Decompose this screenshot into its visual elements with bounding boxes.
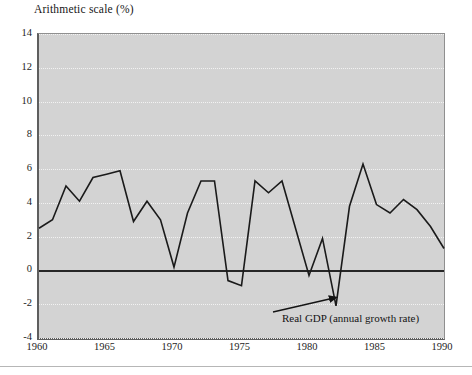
y-axis-tick-labels: 14121086420-2-4: [0, 33, 32, 337]
bottom-divider: [0, 366, 472, 367]
y-tick-label: 14: [4, 28, 32, 38]
y-tick-label: 6: [4, 163, 32, 173]
real-gdp-growth-chart: Arithmetic scale (%) 14121086420-2-4 Rea…: [0, 0, 472, 375]
gridline: [39, 338, 444, 339]
x-tick-label: 1975: [218, 341, 262, 353]
x-tick-label: 1970: [150, 341, 194, 353]
y-tick-label: 2: [4, 231, 32, 241]
x-tick-label: 1990: [420, 341, 464, 353]
y-tick-label: -2: [4, 298, 32, 308]
y-tick-label: 10: [4, 96, 32, 106]
annotation-arrow-layer: [39, 34, 444, 338]
y-tick-label: 0: [4, 264, 32, 274]
annotation-arrow-icon: [273, 298, 336, 313]
annotation-label-real-gdp: Real GDP (annual growth rate): [282, 312, 419, 324]
x-tick-label: 1980: [285, 341, 329, 353]
y-tick-label: 12: [4, 62, 32, 72]
chart-title: Arithmetic scale (%): [34, 3, 134, 15]
plot-area: Real GDP (annual growth rate): [37, 33, 445, 340]
y-tick-label: 8: [4, 129, 32, 139]
x-tick-label: 1985: [353, 341, 397, 353]
x-axis-tick-labels: 1960196519701975198019851990: [0, 341, 472, 357]
x-tick-label: 1960: [15, 341, 59, 353]
y-tick-label: 4: [4, 197, 32, 207]
x-tick-label: 1965: [83, 341, 127, 353]
